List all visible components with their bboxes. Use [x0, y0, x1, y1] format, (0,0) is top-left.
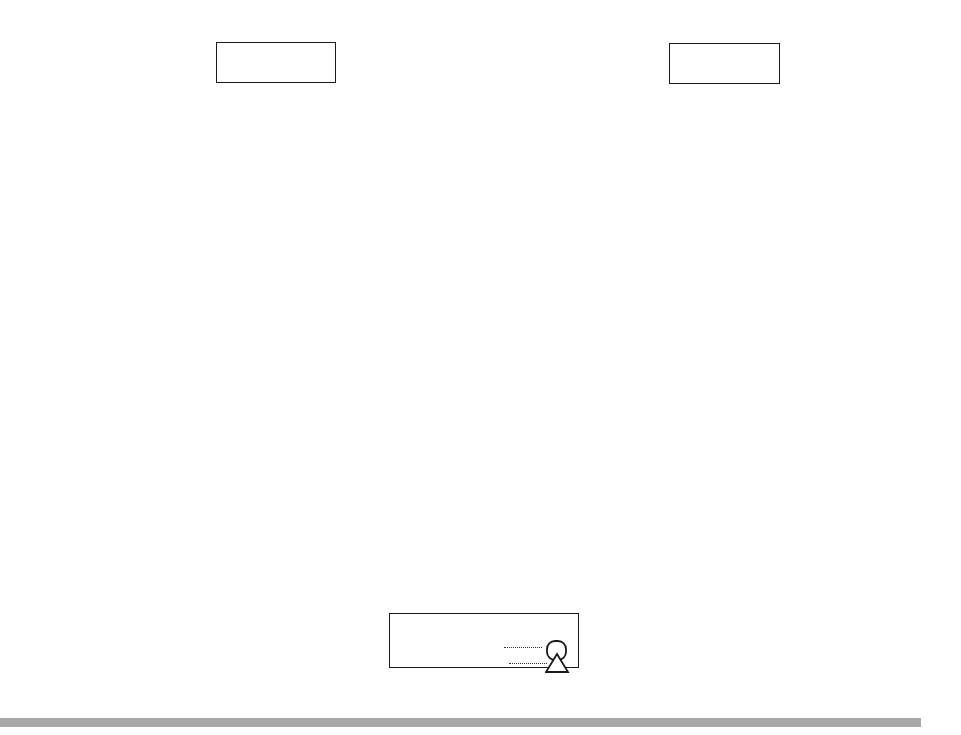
triangle-icon: [545, 652, 571, 674]
footer-bar: [0, 718, 921, 727]
symbol-key: [389, 613, 579, 668]
key-air-dots: [504, 647, 542, 648]
key-bone-dots: [509, 663, 547, 664]
